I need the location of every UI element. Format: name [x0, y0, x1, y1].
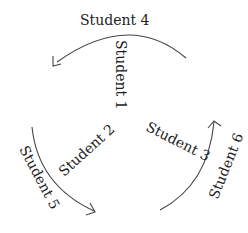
- label-student-4: Student 4: [80, 12, 150, 28]
- rotation-diagram: Student 4 Student 1 Student 2 Student 5 …: [0, 0, 248, 233]
- label-student-1: Student 1: [113, 40, 129, 109]
- label-student-5: Student 5: [16, 143, 63, 212]
- label-student-3: Student 3: [144, 118, 213, 164]
- label-student-2: Student 2: [55, 121, 117, 179]
